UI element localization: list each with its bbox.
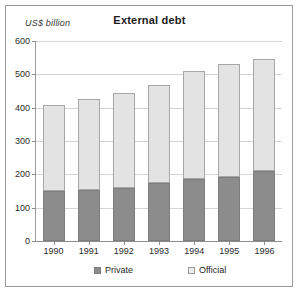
- x-tick-label: 1991: [69, 247, 109, 256]
- y-axis-label: US$ billion: [25, 18, 70, 28]
- y-tick-mark: [32, 41, 36, 42]
- x-tick-mark: [194, 241, 195, 245]
- x-tick-mark: [89, 241, 90, 245]
- y-tick-mark: [32, 108, 36, 109]
- bar-group[interactable]: [78, 41, 100, 241]
- legend-label: Official: [199, 266, 226, 275]
- bar-group[interactable]: [253, 41, 275, 241]
- bar-segment-official[interactable]: [218, 64, 240, 176]
- y-tick-mark: [32, 141, 36, 142]
- bar-segment-private[interactable]: [43, 191, 65, 241]
- legend-label: Private: [105, 266, 133, 275]
- x-tick-label: 1990: [34, 247, 74, 256]
- bar-segment-private[interactable]: [253, 171, 275, 241]
- x-tick-label: 1995: [209, 247, 249, 256]
- bar-group[interactable]: [148, 41, 170, 241]
- plot-area: 0100200300400500600 19901991199219931994…: [36, 41, 282, 241]
- legend-item[interactable]: Official: [188, 266, 226, 275]
- bar-segment-official[interactable]: [78, 99, 100, 190]
- bar-group[interactable]: [43, 41, 65, 241]
- legend-item[interactable]: Private: [94, 266, 133, 275]
- x-tick-label: 1992: [104, 247, 144, 256]
- bar-segment-private[interactable]: [148, 183, 170, 241]
- y-tick-label: 400: [15, 103, 30, 112]
- y-tick-mark: [32, 208, 36, 209]
- bar-segment-official[interactable]: [43, 105, 65, 191]
- y-tick-label: 600: [15, 37, 30, 46]
- y-tick-label: 200: [15, 170, 30, 179]
- x-tick-label: 1993: [139, 247, 179, 256]
- x-tick-mark: [54, 241, 55, 245]
- bar-segment-official[interactable]: [253, 59, 275, 171]
- bar-segment-private[interactable]: [218, 177, 240, 241]
- bar-group[interactable]: [113, 41, 135, 241]
- bar-segment-official[interactable]: [113, 93, 135, 187]
- chart-figure: External debt US$ billion 01002003004005…: [0, 0, 299, 293]
- x-tick-mark: [229, 241, 230, 245]
- bar-segment-official[interactable]: [148, 85, 170, 183]
- y-tick-mark: [32, 174, 36, 175]
- bar-group[interactable]: [218, 41, 240, 241]
- bar-segment-private[interactable]: [78, 190, 100, 241]
- bar-segment-private[interactable]: [113, 188, 135, 241]
- legend-swatch-official: [188, 267, 195, 274]
- y-tick-mark: [32, 241, 36, 242]
- y-tick-label: 500: [15, 70, 30, 79]
- y-tick-mark: [32, 74, 36, 75]
- bar-segment-official[interactable]: [183, 71, 205, 179]
- y-tick-label: 300: [15, 137, 30, 146]
- x-tick-mark: [124, 241, 125, 245]
- bar-segment-private[interactable]: [183, 179, 205, 241]
- x-tick-mark: [159, 241, 160, 245]
- y-tick-label: 100: [15, 203, 30, 212]
- legend-swatch-private: [94, 267, 101, 274]
- chart-legend: PrivateOfficial: [36, 266, 282, 280]
- y-tick-label: 0: [25, 237, 30, 246]
- x-tick-label: 1996: [244, 247, 284, 256]
- x-tick-label: 1994: [174, 247, 214, 256]
- x-tick-mark: [264, 241, 265, 245]
- bar-group[interactable]: [183, 41, 205, 241]
